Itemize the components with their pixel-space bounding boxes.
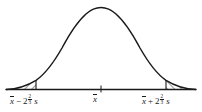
axis-label-mean: x: [93, 94, 97, 104]
x-bar-symbol-left: x: [10, 96, 14, 106]
fraction-left: 23: [28, 94, 32, 106]
normal-curve-figure: x−223s x x+223s: [0, 0, 202, 112]
left-tail-shaded-region: [6, 80, 36, 89]
whole-number-left: 2: [23, 96, 28, 106]
axis-label-upper-bound: x+223s: [142, 94, 170, 106]
fraction-right: 23: [160, 94, 164, 106]
x-bar-symbol-center: x: [93, 94, 97, 104]
x-bar-symbol-right: x: [142, 96, 146, 106]
fraction-denominator-right: 3: [160, 100, 164, 105]
axis-label-lower-bound: x−223s: [10, 94, 38, 106]
right-tail-shaded-region: [166, 80, 196, 89]
s-symbol-left: s: [34, 96, 38, 106]
bell-curve-line: [6, 8, 196, 90]
minus-operator: −: [16, 96, 21, 106]
fraction-denominator-left: 3: [28, 100, 32, 105]
plus-operator: +: [148, 96, 153, 106]
s-symbol-right: s: [166, 96, 170, 106]
whole-number-right: 2: [155, 96, 160, 106]
